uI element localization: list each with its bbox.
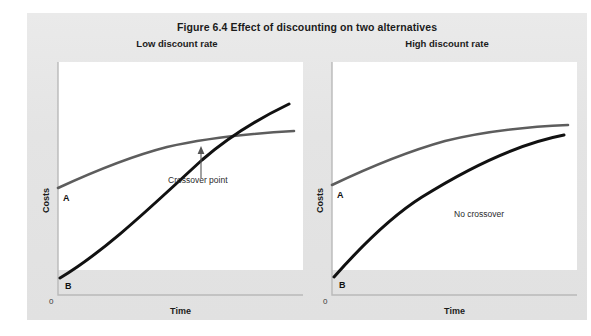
series-label-low-a: A (63, 193, 70, 203)
curve-low-b (60, 104, 289, 278)
y-axis-title-low: Costs (41, 188, 51, 213)
series-label-high-b: B (339, 280, 346, 290)
series-label-low-b: B (65, 281, 72, 291)
y-axis-title-high: Costs (315, 188, 325, 213)
x-axis-title-high: Time (332, 306, 577, 316)
chart-high (332, 62, 577, 295)
origin-label-high: 0 (323, 297, 327, 306)
figure-card: Figure 6.4 Effect of discounting on two … (27, 13, 587, 320)
no-crossover-label: No crossover (454, 209, 504, 219)
x-axis-title-low: Time (58, 306, 303, 316)
origin-label-low: 0 (49, 297, 53, 306)
charts-svg (27, 13, 587, 320)
crossover-point-label: Crossover point (168, 175, 228, 185)
series-label-high-a: A (337, 190, 344, 200)
curve-high-b (334, 135, 564, 277)
crossover-arrow-head (198, 146, 205, 154)
curve-high-a (332, 125, 568, 185)
